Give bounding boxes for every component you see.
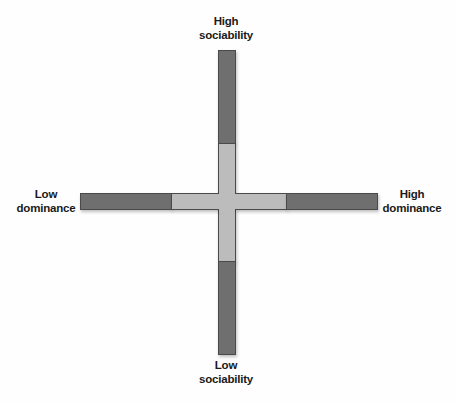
right-label: High dominance [380, 187, 444, 215]
horizontal-left-outer-segment [80, 193, 172, 210]
vertical-top-outer-segment [218, 50, 236, 144]
bottom-label-line2: sociability [186, 372, 266, 386]
top-label-line2: sociability [186, 28, 266, 42]
top-label-line1: High [186, 14, 266, 28]
left-label-line2: dominance [14, 201, 78, 215]
right-label-line2: dominance [380, 201, 444, 215]
horizontal-right-outer-segment [286, 193, 378, 210]
right-label-line1: High [380, 187, 444, 201]
horizontal-right-inner-segment [234, 193, 287, 210]
vertical-bottom-outer-segment [218, 261, 236, 355]
bottom-label-line1: Low [186, 358, 266, 372]
horizontal-left-inner-segment [171, 193, 220, 210]
left-label-line1: Low [14, 187, 78, 201]
vertical-top-inner-segment [218, 143, 236, 195]
left-label: Low dominance [14, 187, 78, 215]
vertical-bottom-inner-segment [218, 208, 236, 262]
bottom-label: Low sociability [186, 358, 266, 386]
top-label: High sociability [186, 14, 266, 42]
center-bridge-horizontal [215, 194, 239, 209]
